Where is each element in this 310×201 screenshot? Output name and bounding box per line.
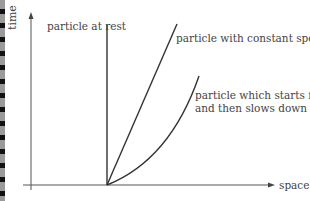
slowing-down-curve: [107, 76, 199, 185]
space-time-diagram: time particle at rest particle with cons…: [0, 0, 310, 201]
y-axis-label: time: [6, 5, 19, 30]
x-axis-arrow-icon: [268, 183, 275, 188]
x-axis-label: space: [279, 179, 309, 191]
constant-speed-line: [107, 24, 177, 185]
y-axis-arrow-icon: [29, 12, 34, 19]
constant-speed-label: particle with constant speed: [176, 32, 310, 44]
slowing-label-line2: and then slows down: [195, 102, 307, 114]
slowing-label-line1: particle which starts fast: [195, 89, 310, 101]
rest-label: particle at rest: [47, 20, 126, 32]
